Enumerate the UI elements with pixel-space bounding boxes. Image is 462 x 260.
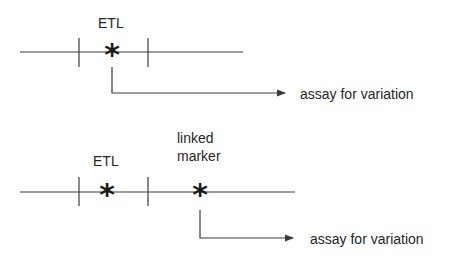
- diagram-lines: [0, 0, 462, 260]
- bottom-etl-label: ETL: [93, 153, 119, 169]
- linked-marker-label-line2: marker: [177, 148, 221, 164]
- bottom-assay-connector: [200, 210, 293, 238]
- bottom-etl-asterisk-icon: *: [99, 180, 115, 210]
- top-assay-connector: [112, 67, 285, 93]
- top-etl-label: ETL: [98, 15, 124, 31]
- bottom-assay-label: assay for variation: [310, 231, 424, 247]
- linked-marker-label-line1: linked: [177, 130, 214, 146]
- top-assay-label: assay for variation: [300, 86, 414, 102]
- top-diagram: [20, 38, 285, 93]
- top-etl-asterisk-icon: *: [104, 40, 120, 70]
- bottom-diagram: [20, 177, 295, 238]
- linked-marker-asterisk-icon: *: [192, 180, 208, 210]
